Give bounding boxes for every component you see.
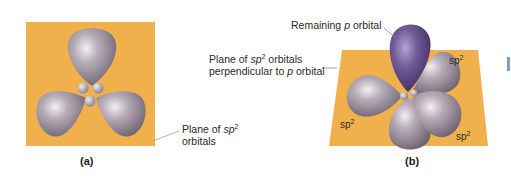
label-superscript: 2 [467,130,471,137]
label-text: orbitals [265,53,302,65]
edge-mark [507,57,510,71]
sp2-label-lower-left: sp2 [340,119,354,130]
caption-a: (a) [80,155,93,167]
sp2-label-upper-right: sp2 [449,55,463,66]
plane-sp2-label-a: Plane of sp2 orbitals [182,123,238,147]
label-text: sp [449,55,460,66]
small-lobe [93,83,104,94]
label-text: sp [340,119,351,130]
label-text: Remaining [291,19,344,31]
small-lobe [78,83,89,94]
label-superscript: 2 [351,118,355,125]
label-text: sp [456,131,467,142]
label-italic: sp [223,123,234,135]
small-lobe [85,96,96,107]
sp2-label-lower-right: sp2 [456,131,470,142]
label-text: orbital [293,65,325,77]
caption-b: (b) [405,155,419,167]
label-italic: sp [250,53,261,65]
label-superscript: 2 [235,123,239,130]
label-superscript: 2 [460,54,464,61]
orbital-diagram [0,0,511,182]
figure-a-diagram [26,22,179,146]
label-text-line2: orbitals [182,135,238,147]
small-lobe [411,90,418,97]
label-text: Plane of [209,53,250,65]
small-lobe [400,92,408,100]
label-text: orbital [350,19,382,31]
plane-perpendicular-label: Plane of sp2 orbitals perpendicular to p… [209,53,325,77]
leader-line-a [153,131,179,141]
label-text: perpendicular to [209,65,287,77]
remaining-p-orbital-label: Remaining p orbital [291,19,381,31]
label-text: Plane of [182,123,223,135]
